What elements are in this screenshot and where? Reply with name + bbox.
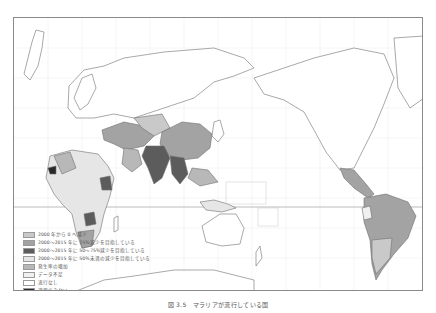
legend-item: 2000～2015 年に 50～75%減少を目指している (23, 247, 150, 255)
legend-swatch (23, 288, 35, 291)
legend-item: 2000 年から 0 へ減少 (23, 231, 150, 239)
legend-label: データ不足 (38, 272, 63, 278)
legend-swatch (23, 280, 35, 286)
legend-item: 発生率の増加 (23, 263, 150, 271)
legend-item: 適用できない (23, 287, 150, 291)
legend-label: 2000～2015 年に 50～75%減少を目指している (38, 248, 145, 254)
legend-label: 2000～2015 年に 75%減少を目指している (38, 240, 135, 246)
legend-label: 適用できない (38, 288, 68, 291)
legend-swatch (23, 264, 35, 270)
legend-label: 流行なし (38, 280, 58, 286)
legend-item: データ不足 (23, 271, 150, 279)
legend-item: 流行なし (23, 279, 150, 287)
figure-caption: 図 3.5 マラリアが流行している国 (0, 300, 436, 309)
legend-swatch (23, 272, 35, 278)
legend-label: 発生率の増加 (38, 264, 68, 270)
legend-swatch (23, 256, 35, 262)
legend-item: 2000～2015 年に 50%未満の減少を目指している (23, 255, 150, 263)
legend-swatch (23, 240, 35, 246)
world-map: 2000 年から 0 へ減少 2000～2015 年に 75%減少を目指している… (13, 17, 423, 291)
legend-swatch (23, 232, 35, 238)
legend-item: 2000～2015 年に 75%減少を目指している (23, 239, 150, 247)
legend-label: 2000～2015 年に 50%未満の減少を目指している (38, 256, 150, 262)
map-legend: 2000 年から 0 へ減少 2000～2015 年に 75%減少を目指している… (23, 231, 150, 291)
legend-swatch (23, 248, 35, 254)
legend-label: 2000 年から 0 へ減少 (38, 232, 87, 238)
